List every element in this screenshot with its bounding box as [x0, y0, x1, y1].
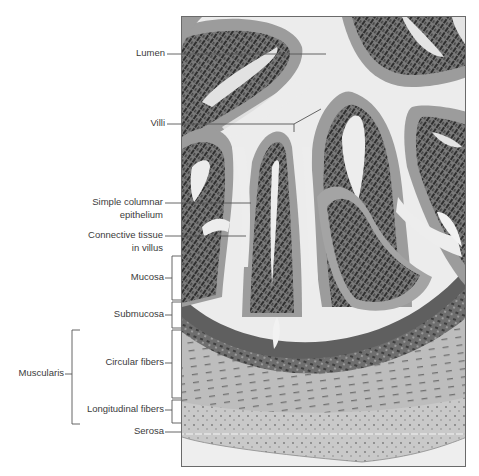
label-simple-columnar-epithelium: Simple columnar epithelium [92, 196, 163, 221]
label-mucosa: Mucosa [131, 271, 164, 283]
submucosa-bracket [172, 302, 181, 328]
label-submucosa: Submucosa [114, 308, 164, 320]
circular-fibers-bracket [172, 330, 181, 398]
intestine-wall-illustration [182, 17, 466, 467]
mucosa-bracket [172, 256, 181, 300]
label-connective-tissue: Connective tissue in villus [88, 229, 163, 254]
longitudinal-fibers-bracket [172, 400, 181, 423]
micrograph-image [181, 16, 466, 467]
label-simple-columnar-line1: Simple columnar [92, 196, 163, 208]
label-villi: Villi [150, 117, 165, 129]
label-serosa: Serosa [134, 425, 164, 437]
label-longitudinal-fibers: Longitudinal fibers [87, 403, 164, 415]
label-lumen: Lumen [136, 47, 165, 59]
label-connective-line2: in villus [88, 242, 163, 254]
label-circular-fibers: Circular fibers [105, 356, 164, 368]
label-muscularis: Muscularis [19, 367, 64, 379]
label-connective-line1: Connective tissue [88, 229, 163, 241]
muscularis-bracket [72, 330, 80, 424]
figure: Lumen Villi Simple columnar epithelium C… [0, 0, 479, 476]
label-simple-columnar-line2: epithelium [92, 209, 163, 221]
